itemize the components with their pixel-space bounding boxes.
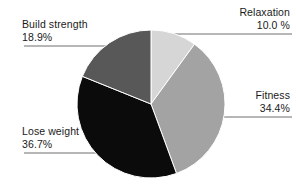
- slice-label-fitness: Fitness 34.4%: [255, 89, 290, 114]
- slice-label-fitness-name: Fitness: [255, 89, 290, 102]
- slice-label-build-strength-name: Build strength: [22, 18, 88, 31]
- pie-slices-group: [77, 30, 225, 178]
- slice-label-fitness-value: 34.4%: [255, 102, 290, 115]
- slice-label-relaxation-name: Relaxation: [239, 6, 290, 19]
- slice-label-lose-weight-name: Lose weight: [22, 125, 79, 138]
- slice-label-build-strength-value: 18.9%: [22, 31, 88, 44]
- pie-chart-figure: Relaxation 10.0 % Fitness 34.4% Build st…: [0, 0, 296, 185]
- slice-label-relaxation: Relaxation 10.0 %: [239, 6, 290, 31]
- slice-label-relaxation-value: 10.0 %: [239, 19, 290, 32]
- slice-label-lose-weight: Lose weight 36.7%: [22, 125, 79, 150]
- slice-label-lose-weight-value: 36.7%: [22, 138, 79, 151]
- slice-label-build-strength: Build strength 18.9%: [22, 18, 88, 43]
